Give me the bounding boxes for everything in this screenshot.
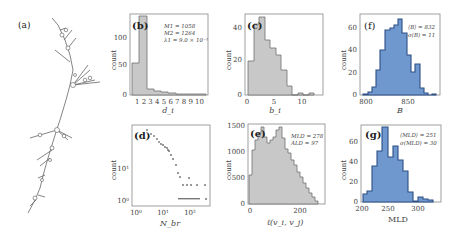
panel-label-a: (a)	[18, 20, 30, 30]
svg-text:800: 800	[359, 98, 372, 106]
svg-text:20: 20	[348, 69, 357, 77]
annotation-ALD: ALD = 97	[290, 140, 319, 146]
svg-text:300: 300	[411, 205, 424, 213]
panel-d-loglog-scatter: count 10¹ 10⁰ 10⁰ 10¹ 10² (d) N_br	[110, 115, 228, 233]
panel-label-g: (g)	[365, 129, 381, 140]
svg-text:0: 0	[353, 91, 357, 99]
svg-text:20: 20	[233, 56, 242, 64]
x-axis-label: b_i	[269, 106, 281, 115]
panel-label-e: (e)	[250, 128, 266, 139]
panel-label-b: (b)	[132, 20, 148, 31]
annotation-mean-B: ⟨B⟩ = 832	[408, 24, 435, 30]
annotation-mean-MLD: ⟨MLD⟩ = 251	[400, 132, 437, 138]
panel-g-MLD-histogram: count 0 20 40 60 (g) ⟨MLD⟩ = 251 σ(MLD) …	[340, 115, 458, 233]
svg-text:5: 5	[272, 98, 276, 106]
svg-text:0: 0	[248, 207, 252, 215]
x-axis-label: B	[396, 106, 403, 115]
y-axis-label: count	[340, 160, 348, 180]
panel-f-B-histogram: count 0 20 40 60 (f) ⟨B⟩ = 832 σ(B) = 11…	[340, 0, 458, 118]
annotation-m1: M1 = 1058	[163, 23, 196, 29]
svg-text:200: 200	[293, 207, 306, 215]
svg-text:0: 0	[245, 98, 249, 106]
svg-text:10: 10	[298, 98, 307, 106]
svg-text:10²: 10²	[184, 209, 196, 217]
svg-text:1 2 3 4 5 6 7 8 9 10: 1 2 3 4 5 6 7 8 9 10	[135, 98, 204, 106]
svg-text:1500: 1500	[227, 122, 245, 130]
tree-graph: (a)	[0, 0, 110, 233]
y-axis-label: count	[340, 50, 348, 70]
svg-text:40: 40	[233, 24, 242, 32]
svg-text:100: 100	[114, 34, 127, 42]
svg-text:850: 850	[401, 98, 414, 106]
svg-text:40: 40	[349, 158, 358, 166]
svg-text:1000: 1000	[227, 148, 245, 156]
panel-label-f: (f)	[364, 20, 376, 31]
svg-text:60: 60	[349, 138, 358, 146]
panel-label-d: (d)	[134, 130, 150, 141]
annotation-sigma-MLD: σ(MLD) = 30	[400, 140, 437, 146]
svg-text:200: 200	[355, 205, 368, 213]
annotation-lambda: λ1 = 9.0 × 10⁻⁴	[163, 37, 208, 43]
panel-label-c: (c)	[247, 20, 263, 31]
y-axis-label: count	[225, 50, 233, 70]
panel-a-tree: (a)	[0, 0, 110, 233]
annotation-MLD: MLD = 278	[290, 133, 324, 139]
panel-c-branch-histogram: count 0 20 40 (c) 0 5 10 b_i	[225, 0, 343, 118]
svg-text:50: 50	[118, 61, 127, 69]
svg-text:500: 500	[232, 174, 245, 182]
svg-text:10⁰: 10⁰	[117, 197, 129, 205]
svg-text:0: 0	[241, 200, 245, 208]
x-axis-label: N_br	[159, 219, 181, 228]
x-axis-label: ℓ(v_i, v_j)	[267, 218, 304, 227]
svg-text:10⁰: 10⁰	[130, 209, 142, 217]
annotation-sigma-B: σ(B) = 11	[408, 32, 435, 38]
svg-text:40: 40	[348, 46, 357, 54]
svg-text:60: 60	[348, 24, 357, 32]
svg-text:250: 250	[381, 205, 394, 213]
x-axis-label: d_i	[162, 106, 174, 115]
x-axis-label: MLD	[388, 215, 408, 224]
svg-text:0: 0	[123, 91, 127, 99]
svg-text:10¹: 10¹	[157, 209, 169, 217]
svg-text:20: 20	[349, 178, 358, 186]
panel-e-path-length-histogram: count 0 500 1000 1500 (e) MLD = 278 ALD …	[225, 115, 343, 233]
annotation-m2: M2 = 1264	[163, 30, 196, 36]
y-axis-label: count	[110, 50, 118, 70]
svg-text:0: 0	[238, 91, 242, 99]
svg-text:10¹: 10¹	[117, 165, 129, 173]
panel-b-degree-histogram: count 0 50 100 (b) M1 = 1058 M2 = 1264 λ…	[110, 0, 228, 118]
